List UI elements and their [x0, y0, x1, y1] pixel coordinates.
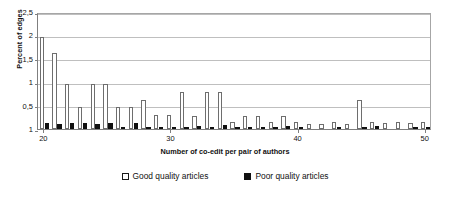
bar-poor-quality	[223, 125, 227, 129]
bar-good-quality	[52, 53, 56, 129]
bar-poor-quality	[337, 127, 341, 129]
bar-good-quality	[65, 84, 69, 129]
bar-good-quality	[319, 124, 323, 129]
y-tick-mark	[35, 84, 38, 85]
bar-good-quality	[230, 122, 234, 129]
bar-poor-quality	[172, 127, 176, 129]
bar-good-quality	[167, 115, 171, 129]
legend-item-poor-quality: Poor quality articles	[244, 171, 328, 181]
x-tick-label: 30	[155, 134, 185, 143]
x-axis: 20304050	[37, 130, 431, 146]
bar-good-quality	[141, 100, 145, 129]
bar-poor-quality	[184, 127, 188, 129]
bar-good-quality	[408, 123, 412, 129]
x-tick-mark	[43, 130, 44, 133]
bar-poor-quality	[261, 127, 265, 129]
plot-area	[37, 13, 431, 130]
y-tick-label: 2,5	[1, 8, 33, 17]
bar-good-quality	[129, 107, 133, 129]
chart-legend: Good quality articles Poor quality artic…	[0, 169, 450, 183]
bar-poor-quality	[83, 123, 87, 129]
bar-good-quality	[116, 107, 120, 129]
bar-good-quality	[243, 116, 247, 129]
bar-good-quality	[256, 116, 260, 129]
y-tick-label: 0,5	[1, 102, 33, 111]
bar-good-quality	[91, 84, 95, 129]
bar-good-quality	[383, 123, 387, 129]
bar-poor-quality	[210, 127, 214, 129]
gridline	[38, 14, 430, 15]
bar-good-quality	[269, 122, 273, 129]
bar-poor-quality	[57, 124, 61, 129]
bar-good-quality	[78, 107, 82, 129]
bar-poor-quality	[273, 127, 277, 129]
y-tick-mark	[35, 14, 38, 15]
bar-good-quality	[307, 124, 311, 129]
bar-good-quality	[294, 122, 298, 129]
bar-good-quality	[154, 115, 158, 129]
bar-poor-quality	[197, 126, 201, 129]
y-tick-mark	[35, 37, 38, 38]
y-tick-mark	[35, 60, 38, 61]
legend-label-poor-quality: Poor quality articles	[255, 171, 328, 181]
chart-figure: Percent of edges 20304050 Number of co-e…	[0, 0, 450, 202]
gridline	[38, 84, 430, 85]
bar-poor-quality	[299, 127, 303, 129]
bar-good-quality	[192, 116, 196, 129]
bar-good-quality	[205, 92, 209, 129]
bar-good-quality	[396, 122, 400, 129]
legend-label-good-quality: Good quality articles	[133, 171, 209, 181]
poor-quality-swatch	[244, 173, 251, 180]
bar-good-quality	[421, 122, 425, 129]
y-tick-label: 2	[1, 31, 33, 40]
bar-good-quality	[103, 84, 107, 129]
bar-poor-quality	[70, 123, 74, 129]
bar-good-quality	[281, 116, 285, 129]
bar-poor-quality	[146, 127, 150, 129]
bar-poor-quality	[362, 127, 366, 129]
gridline	[38, 107, 430, 108]
bar-poor-quality	[426, 127, 430, 129]
legend-item-good-quality: Good quality articles	[122, 171, 209, 181]
bar-good-quality	[357, 100, 361, 129]
bar-good-quality	[332, 122, 336, 129]
bar-poor-quality	[375, 126, 379, 129]
x-tick-label: 40	[283, 134, 313, 143]
x-tick-mark	[298, 130, 299, 133]
y-tick-mark	[35, 107, 38, 108]
bar-poor-quality	[134, 123, 138, 129]
bar-poor-quality	[121, 127, 125, 129]
gridline	[38, 37, 430, 38]
bar-poor-quality	[235, 127, 239, 129]
x-tick-label: 20	[28, 134, 58, 143]
x-axis-title: Number of co-edit per pair of authors	[0, 147, 450, 156]
bar-good-quality	[180, 92, 184, 129]
y-tick-label: 1	[1, 125, 33, 134]
x-tick-mark	[425, 130, 426, 133]
good-quality-swatch	[122, 173, 129, 180]
x-tick-mark	[170, 130, 171, 133]
bar-good-quality	[218, 92, 222, 129]
x-tick-label: 50	[410, 134, 440, 143]
bar-good-quality	[345, 124, 349, 129]
bar-poor-quality	[413, 127, 417, 129]
bar-poor-quality	[159, 127, 163, 129]
bar-poor-quality	[248, 127, 252, 129]
bar-poor-quality	[286, 126, 290, 129]
bar-poor-quality	[108, 123, 112, 129]
y-tick-label: 1	[1, 78, 33, 87]
bar-poor-quality	[45, 123, 49, 129]
gridline	[38, 60, 430, 61]
bar-good-quality	[40, 37, 44, 129]
bar-good-quality	[370, 122, 374, 129]
y-tick-label: 1,5	[1, 55, 33, 64]
bar-poor-quality	[95, 124, 99, 129]
